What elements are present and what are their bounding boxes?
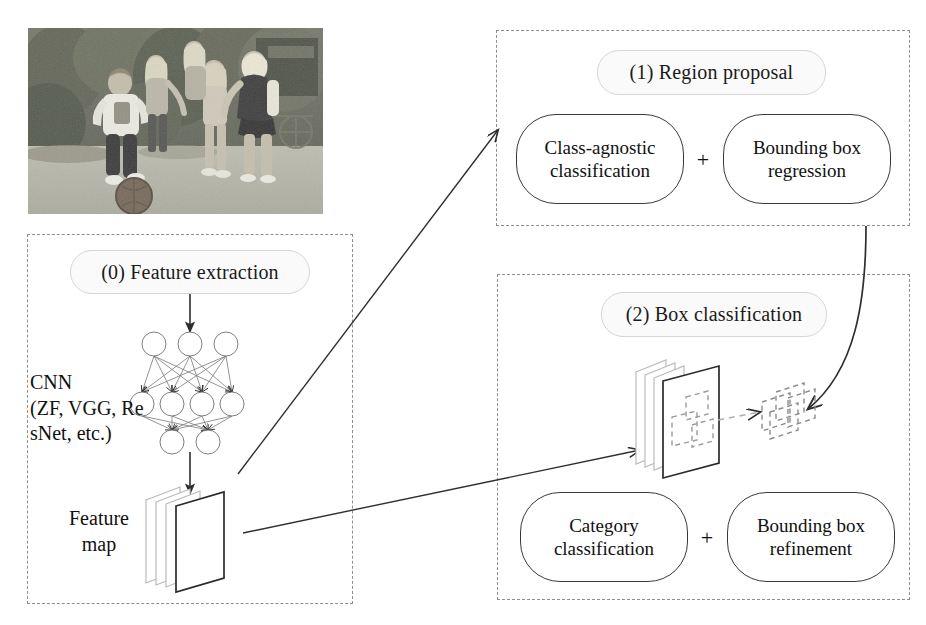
header-box-classification-label: (2) Box classification [626, 303, 803, 326]
feature-map-label: Feature map [44, 506, 154, 557]
stage1-plus-operator: + [692, 147, 714, 173]
header-feature-extraction-label: (0) Feature extraction [101, 261, 279, 284]
connector-proposals-to-feature-map [718, 412, 760, 420]
feature-map-stack [146, 487, 224, 592]
op-bounding-box-regression-line1: Bounding box [753, 136, 861, 159]
header-feature-extraction: (0) Feature extraction [70, 250, 310, 294]
op-class-agnostic-classification-line1: Class-agnostic [545, 136, 656, 159]
figure-canvas: (0) Feature extraction CNN (ZF, VGG, Re … [0, 0, 926, 625]
cnn-backbone-label: CNN (ZF, VGG, Re sNet, etc.) [30, 370, 180, 447]
op-bounding-box-regression-line2: regression [768, 159, 846, 182]
op-class-agnostic-classification-line2: classification [550, 159, 650, 182]
header-region-proposal: (1) Region proposal [597, 50, 826, 95]
op-bounding-box-refinement-line2: refinement [770, 537, 852, 560]
proposal-cluster [762, 383, 815, 439]
op-bounding-box-regression: Bounding box regression [723, 114, 891, 204]
stage2-plus-operator: + [696, 525, 718, 551]
op-category-classification: Category classification [520, 492, 688, 582]
header-region-proposal-label: (1) Region proposal [630, 61, 794, 84]
op-category-classification-line1: Category [569, 514, 639, 537]
arrow-feature-map-to-region-proposal [238, 130, 498, 474]
op-class-agnostic-classification: Class-agnostic classification [516, 114, 684, 204]
box-classification-feature-map [636, 360, 719, 478]
header-box-classification: (2) Box classification [601, 292, 827, 337]
op-bounding-box-refinement: Bounding box refinement [727, 492, 895, 582]
op-bounding-box-refinement-line1: Bounding box [757, 514, 865, 537]
op-category-classification-line2: classification [554, 537, 654, 560]
